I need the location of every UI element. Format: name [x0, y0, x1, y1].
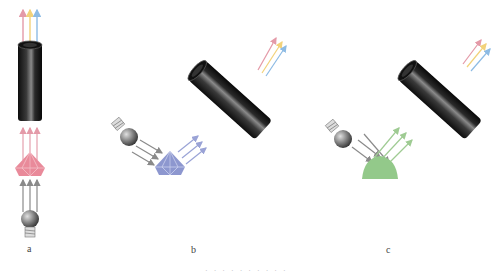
detector-tube-b [185, 58, 272, 140]
lamp-c [325, 119, 352, 148]
incident-rays-b [132, 140, 162, 165]
panel-label-c: c [386, 244, 390, 255]
panel-label-b: b [191, 244, 196, 255]
output-rays-a [23, 10, 37, 42]
blue-gem-sample [155, 151, 185, 175]
output-rays-c [463, 40, 490, 71]
lamp-b [111, 117, 138, 146]
panel-c [325, 40, 490, 179]
lamp-a [21, 210, 39, 237]
reflected-rays-b [178, 136, 206, 164]
measurement-geometry-diagram [0, 0, 501, 273]
detector-tube-a [18, 41, 42, 121]
panel-b [111, 38, 286, 175]
detector-tube-c [395, 58, 482, 140]
panel-a [15, 10, 45, 237]
red-gem-sample [15, 152, 45, 176]
panel-label-a: a [27, 243, 31, 254]
output-rays-b [258, 38, 286, 76]
incident-rays-a [23, 180, 37, 212]
figure-caption: · · · · · · · · · · [205, 266, 288, 273]
